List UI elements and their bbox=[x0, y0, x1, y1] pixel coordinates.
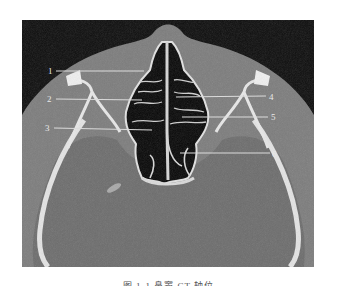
scan-noise bbox=[22, 20, 314, 267]
label-2: 2 bbox=[47, 94, 52, 104]
label-1: 1 bbox=[48, 66, 53, 76]
figure-caption: 图 1-1 鼻窦 CT 轴位 bbox=[0, 279, 337, 286]
label-6: 6 bbox=[272, 149, 277, 159]
label-4: 4 bbox=[269, 92, 274, 102]
label-3: 3 bbox=[45, 123, 50, 133]
label-5: 5 bbox=[271, 112, 276, 122]
ct-scan-figure: 1 2 3 4 5 6 bbox=[22, 20, 314, 267]
